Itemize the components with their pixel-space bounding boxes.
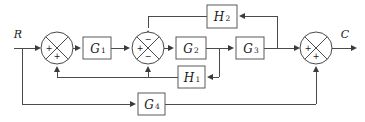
block-g2-subscript: 2 — [194, 46, 199, 55]
block-h2-subscript: 2 — [226, 14, 231, 23]
block-g3-label: G — [243, 42, 253, 56]
arrow-into-h1 — [207, 74, 213, 80]
block-diagram-svg: + + − + − + + G 1 G 2 — [0, 0, 365, 122]
block-g1[interactable]: G 1 — [83, 37, 111, 59]
block-g3-subscript: 3 — [254, 46, 259, 55]
input-label-r: R — [13, 28, 22, 41]
arrow-into-sum3 — [294, 45, 300, 51]
arrow-sum3-bottom-input — [313, 66, 319, 72]
block-g3[interactable]: G 3 — [236, 37, 264, 59]
summing-junction-sum3[interactable]: + + — [300, 32, 332, 64]
sum3-sign-left: + — [305, 44, 312, 53]
arrow-into-g4 — [130, 101, 136, 107]
sum2-sign-top: − — [145, 35, 152, 44]
block-g1-label: G — [90, 42, 100, 56]
block-g1-subscript: 1 — [101, 46, 106, 55]
block-h1-subscript: 1 — [196, 75, 201, 84]
arrow-into-sum2 — [124, 45, 130, 51]
sum3-sign-bottom: + — [313, 52, 320, 61]
arrow-into-h2 — [239, 13, 245, 19]
block-g2-label: G — [183, 42, 193, 56]
arrow-into-g1 — [75, 45, 81, 51]
block-g4-subscript: 4 — [155, 102, 160, 111]
block-h2[interactable]: H 2 — [207, 5, 237, 28]
summing-junction-sum2[interactable]: − + − — [132, 32, 164, 64]
arrow-into-sum1 — [35, 45, 41, 51]
arrow-sum1-bottom-input — [54, 66, 60, 72]
arrow-sum2-bottom-input — [145, 66, 151, 72]
block-g2[interactable]: G 2 — [176, 37, 206, 59]
block-h1-label: H — [183, 71, 195, 85]
block-g4[interactable]: G 4 — [138, 93, 165, 115]
arrow-into-g2 — [168, 45, 174, 51]
summing-junction-sum1[interactable]: + + — [41, 32, 73, 64]
sum1-sign-left: + — [46, 44, 53, 53]
sum2-sign-bottom: − — [145, 52, 152, 61]
arrow-into-g3 — [228, 45, 234, 51]
block-diagram-canvas: + + − + − + + G 1 G 2 — [0, 0, 365, 122]
sum2-sign-left: + — [137, 44, 144, 53]
block-h2-label: H — [213, 10, 225, 24]
block-h1[interactable]: H 1 — [178, 66, 205, 88]
sum1-sign-bottom: + — [54, 52, 61, 61]
output-label-c: C — [341, 28, 350, 41]
arrow-output-c — [351, 45, 357, 51]
block-g4-label: G — [144, 98, 154, 112]
